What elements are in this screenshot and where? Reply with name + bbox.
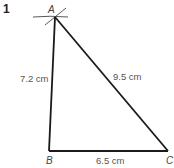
triangle-diagram: A B C 7.2 cm 9.5 cm 6.5 cm [0, 0, 174, 168]
side-label-ab: 7.2 cm [20, 73, 49, 84]
arc-horizontal [33, 16, 68, 17]
vertex-label-b: B [46, 155, 53, 166]
side-ac [55, 17, 168, 151]
side-label-ac: 9.5 cm [113, 71, 142, 82]
vertex-label-a: A [47, 4, 55, 15]
triangle [49, 17, 168, 151]
side-label-bc: 6.5 cm [96, 155, 125, 166]
side-ab [49, 17, 55, 151]
vertex-label-c: C [166, 155, 174, 166]
